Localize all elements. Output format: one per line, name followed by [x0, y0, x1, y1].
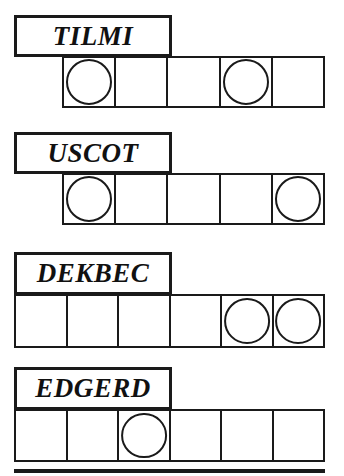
letter-cell[interactable] — [68, 411, 120, 460]
word-label-text: USCOT — [47, 140, 138, 167]
circle-marker-icon — [223, 59, 269, 105]
next-row-top-edge — [14, 469, 325, 473]
letter-cell[interactable] — [221, 175, 273, 223]
letter-cell[interactable] — [222, 296, 274, 346]
word-shape-worksheet: TILMIUSCOTDEKBECEDGERD — [0, 0, 344, 476]
circle-marker-icon — [275, 298, 321, 344]
circle-marker-icon — [224, 298, 270, 344]
circle-marker-icon — [66, 176, 112, 222]
letter-cell-strip — [14, 294, 325, 348]
word-label-box: EDGERD — [14, 367, 172, 410]
letter-cell[interactable] — [273, 58, 323, 106]
letter-cell[interactable] — [64, 58, 116, 106]
letter-cell[interactable] — [16, 411, 68, 460]
letter-cell[interactable] — [119, 411, 171, 460]
word-label-box: USCOT — [14, 132, 172, 174]
letter-cell[interactable] — [168, 58, 220, 106]
letter-cell[interactable] — [273, 175, 323, 223]
letter-cell[interactable] — [116, 58, 168, 106]
letter-cell[interactable] — [221, 58, 273, 106]
letter-cell-strip — [14, 409, 325, 462]
letter-cell-strip — [62, 173, 325, 225]
letter-cell[interactable] — [119, 296, 171, 346]
letter-cell[interactable] — [16, 296, 68, 346]
letter-cell[interactable] — [274, 411, 324, 460]
letter-cell[interactable] — [168, 175, 220, 223]
letter-cell[interactable] — [222, 411, 274, 460]
word-label-text: DEKBEC — [37, 260, 150, 287]
word-label-box: DEKBEC — [14, 252, 172, 295]
letter-cell[interactable] — [64, 175, 116, 223]
letter-cell[interactable] — [116, 175, 168, 223]
letter-cell[interactable] — [274, 296, 324, 346]
word-label-text: TILMI — [53, 23, 134, 50]
word-label-text: EDGERD — [35, 375, 151, 402]
letter-cell-strip — [62, 56, 325, 108]
word-label-box: TILMI — [14, 15, 172, 57]
letter-cell[interactable] — [171, 411, 223, 460]
circle-marker-icon — [121, 413, 167, 459]
letter-cell[interactable] — [68, 296, 120, 346]
letter-cell[interactable] — [171, 296, 223, 346]
circle-marker-icon — [66, 59, 112, 105]
circle-marker-icon — [275, 176, 321, 222]
